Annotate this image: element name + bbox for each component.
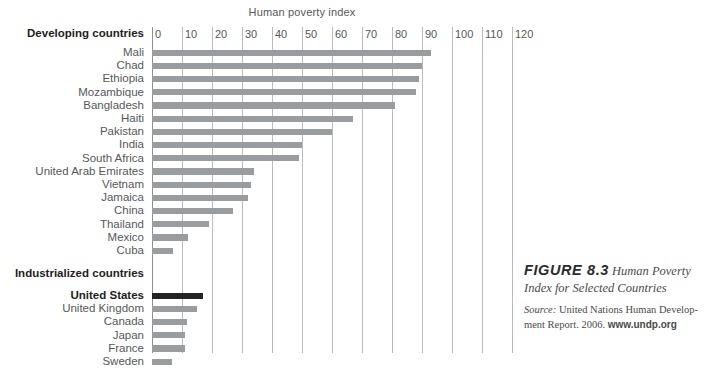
tick-label-80: 80 (392, 28, 407, 40)
category-label-uae: United Arab Emirates (0, 165, 148, 178)
bar-jamaica (152, 195, 248, 201)
bar-thailand (152, 221, 209, 227)
category-label-france: France (0, 342, 148, 355)
bar-united-arab-emirates (152, 168, 254, 174)
category-label-ethiopia: Ethiopia (0, 72, 148, 85)
bar-china (152, 208, 233, 214)
category-label-vietnam: Vietnam (0, 178, 148, 191)
category-label-pakistan: Pakistan (0, 125, 148, 138)
category-label-sweden: Sweden (0, 355, 148, 368)
category-label-canada: Canada (0, 315, 148, 328)
category-label-united-kingdom: United Kingdom (0, 302, 148, 315)
bar-mexico (152, 234, 188, 240)
figure-caption: FIGURE 8.3 Human Poverty Index for Selec… (524, 262, 712, 332)
bar-united-states (152, 293, 203, 299)
tick-label-110: 110 (482, 28, 503, 40)
source-text: United Nations Human Develop- (559, 304, 698, 315)
bar-cuba (152, 248, 173, 254)
bar-sweden (152, 359, 172, 365)
tick-label-120: 120 (512, 28, 533, 40)
group-label-developing: Developing countries (0, 27, 148, 40)
tick-label-40: 40 (272, 28, 287, 40)
figure-number: FIGURE 8.3 (524, 262, 609, 278)
source-label: Source: (524, 304, 556, 315)
bar-vietnam (152, 182, 251, 188)
category-label-china: China (0, 204, 148, 217)
bar-haiti (152, 116, 353, 122)
category-label-mali: Mali (0, 46, 148, 59)
tick-label-10: 10 (182, 28, 197, 40)
plot-area: 0 10 20 30 40 50 60 70 80 90 100 110 120 (152, 27, 512, 353)
bar-chad (152, 63, 422, 69)
category-label-chad: Chad (0, 59, 148, 72)
tick-label-20: 20 (212, 28, 227, 40)
tick-label-60: 60 (332, 28, 347, 40)
gridline-100 (452, 27, 453, 353)
category-label-cuba: Cuba (0, 244, 148, 257)
tick-label-30: 30 (242, 28, 257, 40)
caption-title-line2: Index for Selected Countries (524, 280, 712, 297)
caption-source: Source: United Nations Human Develop- me… (524, 302, 712, 332)
bar-south-africa (152, 155, 299, 161)
bar-united-kingdom (152, 306, 197, 312)
tick-label-70: 70 (362, 28, 377, 40)
bar-france (152, 345, 185, 351)
category-label-india: India (0, 138, 148, 151)
tick-label-90: 90 (422, 28, 437, 40)
tick-label-0: 0 (152, 28, 161, 40)
category-label-mozambique: Mozambique (0, 86, 148, 99)
gridline-90 (422, 27, 423, 353)
gridline-120 (512, 27, 513, 353)
group-label-industrialized: Industrialized countries (0, 267, 148, 280)
source-text-2: ment Report. 2006. (524, 319, 605, 330)
bar-pakistan (152, 129, 332, 135)
bar-india (152, 142, 302, 148)
caption-first-line: FIGURE 8.3 Human Poverty (524, 262, 712, 280)
bar-ethiopia (152, 76, 419, 82)
category-label-south-africa: South Africa (0, 152, 148, 165)
bar-mali (152, 50, 431, 56)
category-label-bangladesh: Bangladesh (0, 99, 148, 112)
category-label-united-states: United States (0, 289, 148, 302)
tick-label-100: 100 (452, 28, 473, 40)
category-label-thailand: Thailand (0, 218, 148, 231)
bar-mozambique (152, 89, 416, 95)
bar-bangladesh (152, 102, 395, 108)
gridline-110 (482, 27, 483, 353)
caption-title-line1: Human Poverty (612, 264, 691, 278)
axis-title: Human poverty index (152, 6, 452, 18)
bar-canada (152, 319, 187, 325)
tick-label-50: 50 (302, 28, 317, 40)
category-label-jamaica: Jamaica (0, 191, 148, 204)
category-label-japan: Japan (0, 329, 148, 342)
category-label-mexico: Mexico (0, 231, 148, 244)
source-url[interactable]: www.undp.org (608, 319, 677, 330)
category-label-haiti: Haiti (0, 112, 148, 125)
bar-japan (152, 332, 185, 338)
